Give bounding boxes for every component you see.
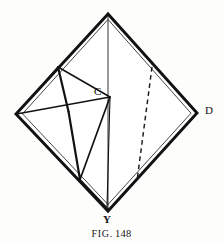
- vertex-label-y: Y: [103, 214, 111, 225]
- diamond-outline: [16, 14, 197, 211]
- caption-prefix: FIG.: [91, 228, 112, 239]
- vertex-label-c: C: [94, 86, 101, 97]
- figure-drawing: [0, 0, 223, 244]
- figure-caption: FIG.148: [0, 228, 223, 239]
- caption-number: 148: [113, 228, 132, 239]
- diamond-outer-edge: [16, 14, 197, 211]
- vertex-label-d: D: [205, 105, 213, 116]
- figure-container: C D Y FIG.148: [0, 0, 223, 244]
